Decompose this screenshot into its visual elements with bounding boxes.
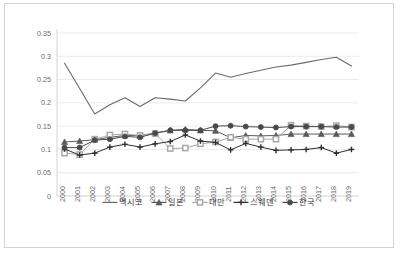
legend-item-2[interactable]: 대만 bbox=[193, 198, 226, 207]
data-point-marker bbox=[77, 145, 82, 150]
x-tick-label: 2017 bbox=[314, 186, 323, 202]
data-series-group bbox=[62, 57, 355, 158]
legend-label: 멕시코 bbox=[119, 197, 143, 207]
data-point-marker bbox=[153, 131, 158, 136]
data-point-marker bbox=[273, 125, 278, 130]
x-tick-label: 2002 bbox=[88, 186, 97, 202]
data-point-marker bbox=[168, 146, 173, 151]
data-point-marker bbox=[319, 124, 324, 129]
data-point-marker bbox=[349, 125, 354, 130]
x-tick-label: 2015 bbox=[284, 186, 293, 202]
y-tick-label: 0.1 bbox=[41, 145, 51, 154]
data-point-marker bbox=[258, 137, 263, 142]
legend-label: 일본 bbox=[168, 198, 184, 207]
data-point-marker bbox=[258, 125, 263, 130]
chart-frame: 00.050.10.150.20.250.30.35 2000200120022… bbox=[4, 3, 394, 248]
data-point-marker bbox=[183, 145, 188, 150]
data-point-marker bbox=[334, 125, 339, 130]
legend-label: 스웨덴 bbox=[250, 197, 274, 207]
data-point-marker bbox=[243, 124, 248, 129]
data-point-marker bbox=[62, 145, 67, 150]
data-point-marker bbox=[213, 124, 218, 129]
y-tick-label: 0.3 bbox=[41, 52, 51, 61]
data-point-marker bbox=[289, 124, 294, 129]
data-point-marker bbox=[92, 138, 97, 143]
legend-label: 한국 bbox=[299, 198, 315, 207]
line-chart: 00.050.10.150.20.250.30.35 2000200120022… bbox=[5, 4, 395, 249]
x-tick-label: 2000 bbox=[58, 186, 67, 202]
y-axis-tick-labels: 00.050.10.150.20.250.30.35 bbox=[37, 29, 51, 201]
data-point-marker bbox=[107, 137, 112, 142]
data-point-marker bbox=[288, 200, 293, 205]
y-tick-label: 0.2 bbox=[41, 98, 51, 107]
y-tick-label: 0.35 bbox=[37, 29, 51, 38]
data-point-marker bbox=[304, 124, 309, 129]
data-point-marker bbox=[168, 128, 173, 133]
y-tick-label: 0 bbox=[47, 192, 51, 201]
data-point-marker bbox=[122, 134, 127, 139]
x-tick-label: 2012 bbox=[239, 186, 248, 202]
y-tick-label: 0.25 bbox=[37, 75, 51, 84]
series-line bbox=[65, 57, 352, 114]
y-tick-label: 0.05 bbox=[37, 168, 51, 177]
gridlines bbox=[57, 29, 359, 196]
x-tick-label: 2019 bbox=[344, 186, 353, 202]
x-tick-label: 2006 bbox=[148, 186, 157, 202]
y-tick-label: 0.15 bbox=[37, 122, 51, 131]
data-point-marker bbox=[197, 200, 202, 205]
x-tick-label: 2001 bbox=[73, 186, 82, 202]
series-0 bbox=[65, 57, 352, 114]
data-point-marker bbox=[198, 128, 203, 133]
legend-label: 대만 bbox=[209, 198, 225, 207]
data-point-marker bbox=[228, 135, 233, 140]
x-tick-label: 2003 bbox=[103, 186, 112, 202]
data-point-marker bbox=[228, 123, 233, 128]
x-tick-label: 2011 bbox=[224, 187, 233, 202]
data-point-marker bbox=[273, 137, 278, 142]
x-tick-label: 2018 bbox=[329, 186, 338, 202]
data-point-marker bbox=[138, 135, 143, 140]
data-point-marker bbox=[183, 128, 188, 133]
